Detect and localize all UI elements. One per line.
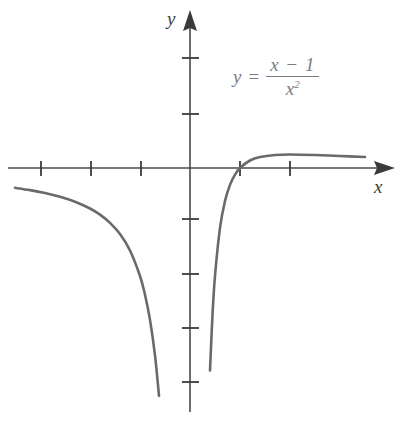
plot-canvas	[0, 0, 404, 422]
y-axis-arrowhead	[183, 10, 197, 31]
equation-equals-sign: =	[241, 67, 266, 86]
equation-numerator: x − 1	[266, 55, 319, 76]
y-axis-label: y	[167, 8, 175, 30]
curve-left-branch	[15, 188, 159, 396]
equation-annotation: y= x − 1 x2	[233, 55, 319, 98]
equation-denominator-exponent: 2	[294, 78, 300, 90]
equation-fraction: x − 1 x2	[266, 55, 319, 98]
curve-right-branch	[210, 154, 365, 370]
equation-denominator-base: x	[286, 78, 294, 99]
equation-denominator: x2	[266, 77, 319, 98]
x-axis-arrowhead	[374, 161, 395, 175]
x-axis-label: x	[374, 176, 382, 198]
graph-figure: y x y= x − 1 x2	[0, 0, 404, 422]
equation-lhs: y	[233, 67, 241, 86]
